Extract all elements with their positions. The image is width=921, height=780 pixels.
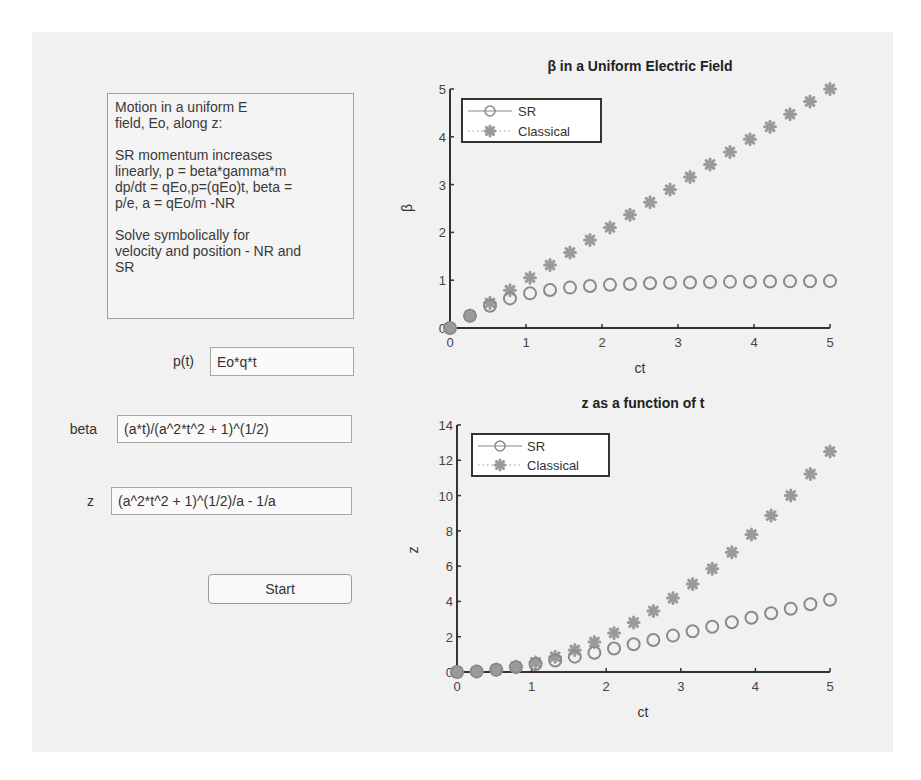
beta-sr-series bbox=[444, 275, 836, 334]
z-x-label: ct bbox=[638, 704, 649, 720]
svg-text:0: 0 bbox=[453, 679, 460, 694]
svg-text:10: 10 bbox=[439, 489, 453, 504]
legend-sr-label: SR bbox=[527, 439, 545, 454]
svg-text:4: 4 bbox=[752, 679, 759, 694]
svg-text:2: 2 bbox=[446, 630, 453, 645]
beta-y-label: β bbox=[399, 204, 415, 212]
z-chart: z as a function of t 02468101214 012345 … bbox=[405, 395, 836, 720]
svg-text:3: 3 bbox=[674, 335, 681, 350]
svg-text:4: 4 bbox=[446, 594, 453, 609]
svg-text:2: 2 bbox=[603, 679, 610, 694]
beta-y-ticks: 012345 bbox=[439, 82, 454, 336]
beta-chart-title: β in a Uniform Electric Field bbox=[547, 58, 732, 74]
legend-classical-label: Classical bbox=[527, 458, 579, 473]
svg-text:12: 12 bbox=[439, 453, 453, 468]
svg-text:3: 3 bbox=[677, 679, 684, 694]
svg-text:5: 5 bbox=[439, 82, 446, 97]
svg-text:14: 14 bbox=[439, 418, 453, 433]
svg-text:2: 2 bbox=[439, 225, 446, 240]
beta-x-label: ct bbox=[635, 360, 646, 376]
z-sr-series bbox=[451, 594, 836, 678]
svg-text:1: 1 bbox=[439, 273, 446, 288]
legend-classical-label: Classical bbox=[518, 124, 570, 139]
z-chart-title: z as a function of t bbox=[582, 395, 705, 411]
legend-classical-asterisk-icon bbox=[495, 460, 505, 470]
svg-text:1: 1 bbox=[522, 335, 529, 350]
z-classical-series bbox=[452, 446, 836, 678]
svg-text:4: 4 bbox=[439, 130, 446, 145]
z-legend: SR Classical bbox=[472, 434, 609, 476]
beta-legend: SR Classical bbox=[462, 99, 601, 142]
svg-text:4: 4 bbox=[750, 335, 757, 350]
svg-text:0: 0 bbox=[446, 335, 453, 350]
legend-classical-asterisk-icon bbox=[485, 126, 495, 136]
svg-text:2: 2 bbox=[598, 335, 605, 350]
legend-sr-label: SR bbox=[518, 104, 536, 119]
svg-text:3: 3 bbox=[439, 178, 446, 193]
svg-text:5: 5 bbox=[826, 335, 833, 350]
beta-chart: β in a Uniform Electric Field 012345 012… bbox=[399, 58, 836, 376]
charts-canvas: β in a Uniform Electric Field 012345 012… bbox=[0, 0, 921, 780]
svg-text:6: 6 bbox=[446, 559, 453, 574]
svg-text:1: 1 bbox=[528, 679, 535, 694]
svg-text:5: 5 bbox=[826, 679, 833, 694]
svg-text:8: 8 bbox=[446, 524, 453, 539]
z-y-label: z bbox=[405, 547, 421, 554]
